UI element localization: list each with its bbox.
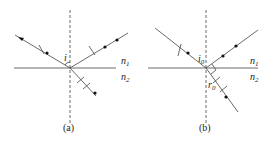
angle-i0-label: i0 — [198, 53, 205, 66]
n2-label-b: n2 — [250, 71, 259, 84]
right-angle-icon — [211, 64, 216, 74]
diagram-canvas: i n1 n2 (a) i0 r0 n1 n2 (b) — [0, 0, 271, 141]
n1-label-a: n1 — [121, 55, 130, 68]
reflected-ray-a — [70, 33, 128, 68]
angle-i-label: i — [64, 52, 67, 63]
panel-a — [14, 10, 128, 124]
arrow-icon — [18, 37, 24, 41]
dot-icon — [45, 51, 48, 54]
angle-r0-label: r0 — [208, 79, 216, 92]
caption-b: (b) — [199, 122, 211, 134]
n2-label-a: n2 — [121, 71, 130, 84]
panel-b — [148, 10, 258, 124]
refracted-ray-a — [70, 68, 96, 96]
caption-a: (a) — [63, 122, 74, 134]
polarization-diagram: i n1 n2 (a) i0 r0 n1 n2 (b) — [0, 0, 271, 141]
n1-label-b: n1 — [250, 55, 259, 68]
